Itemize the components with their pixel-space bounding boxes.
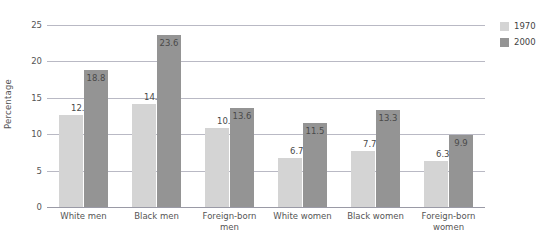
x-category-label-line: Black men xyxy=(120,211,193,222)
legend-swatch-icon xyxy=(500,22,509,31)
x-category-label-line: men xyxy=(193,222,266,233)
bar[interactable]: 13.6 xyxy=(230,108,254,207)
legend: 19702000 xyxy=(500,19,550,51)
plot-area: 0510152025 12.718.814.223.610.913.66.711… xyxy=(47,25,485,207)
x-category-label: Foreign-bornwomen xyxy=(412,211,485,233)
x-category-label: Black women xyxy=(339,211,412,222)
bar-value-label: 7.7 xyxy=(363,140,373,149)
y-axis-title-label: Percentage xyxy=(3,79,13,129)
bar-value-label: 13.6 xyxy=(233,112,252,121)
bar-group: 6.39.9 xyxy=(412,25,485,207)
legend-swatch-icon xyxy=(500,38,509,47)
bar[interactable]: 23.6 xyxy=(157,35,181,207)
x-category-label-line: White men xyxy=(47,211,120,222)
y-axis-title: Percentage xyxy=(0,0,16,207)
x-category-label: Black men xyxy=(120,211,193,222)
bar[interactable]: 14.2 xyxy=(132,104,156,207)
bar[interactable]: 6.7 xyxy=(278,158,302,207)
bar-value-label: 10.9 xyxy=(217,117,227,126)
bar[interactable]: 11.5 xyxy=(303,123,327,207)
bar-group: 10.913.6 xyxy=(193,25,266,207)
bar-value-label: 14.2 xyxy=(144,93,154,102)
legend-label: 1970 xyxy=(514,22,536,31)
bar[interactable]: 6.3 xyxy=(424,161,448,207)
bars-layer: 12.718.814.223.610.913.66.711.57.713.36.… xyxy=(47,25,485,207)
y-tick-label-5: 5 xyxy=(37,166,42,175)
x-category-label-line: Black women xyxy=(339,211,412,222)
x-category-label-line: women xyxy=(412,222,485,233)
x-category-label: White men xyxy=(47,211,120,222)
bar[interactable]: 10.9 xyxy=(205,128,229,207)
legend-label: 2000 xyxy=(514,38,536,47)
y-tick-label-10: 10 xyxy=(31,130,42,139)
bar[interactable]: 13.3 xyxy=(376,110,400,207)
bar-value-label: 9.9 xyxy=(454,139,468,148)
y-tick-label-20: 20 xyxy=(31,57,42,66)
bar[interactable]: 12.7 xyxy=(59,115,83,207)
bar-group: 12.718.8 xyxy=(47,25,120,207)
y-tick-label-25: 25 xyxy=(31,21,42,30)
bar[interactable]: 7.7 xyxy=(351,151,375,207)
bar[interactable]: 18.8 xyxy=(84,70,108,207)
x-category-label-line: White women xyxy=(266,211,339,222)
bar-value-label: 23.6 xyxy=(160,39,179,48)
bar-value-label: 12.7 xyxy=(71,104,81,113)
bar-chart: Percentage 0510152025 12.718.814.223.610… xyxy=(0,0,550,247)
bar-group: 14.223.6 xyxy=(120,25,193,207)
x-category-label: White women xyxy=(266,211,339,222)
x-category-label-line: Foreign-born xyxy=(412,211,485,222)
legend-item-2000[interactable]: 2000 xyxy=(500,35,550,49)
x-axis-category-labels: White menBlack menForeign-bornmenWhite w… xyxy=(47,211,485,245)
bar-value-label: 13.3 xyxy=(379,114,398,123)
bar-group: 7.713.3 xyxy=(339,25,412,207)
x-category-label: Foreign-bornmen xyxy=(193,211,266,233)
legend-item-1970[interactable]: 1970 xyxy=(500,19,550,33)
bar-value-label: 6.7 xyxy=(290,147,300,156)
bar-value-label: 6.3 xyxy=(436,150,446,159)
gridline-0: 0 xyxy=(47,207,485,208)
bar[interactable]: 9.9 xyxy=(449,135,473,207)
y-tick-label-15: 15 xyxy=(31,94,42,103)
x-category-label-line: Foreign-born xyxy=(193,211,266,222)
bar-value-label: 18.8 xyxy=(87,74,106,83)
y-tick-label-0: 0 xyxy=(37,203,42,212)
bar-group: 6.711.5 xyxy=(266,25,339,207)
bar-value-label: 11.5 xyxy=(306,127,325,136)
